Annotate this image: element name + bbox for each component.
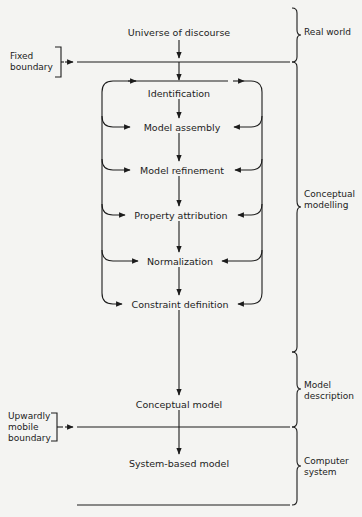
node-model-refinement: Model refinement <box>138 165 226 176</box>
node-property-attribution: Property attribution <box>132 210 229 221</box>
node-model-assembly: Model assembly <box>142 122 223 133</box>
node-normalization: Normalization <box>145 256 215 267</box>
region-model-description-line1: Model <box>304 380 354 391</box>
node-system-based-model: System-based model <box>127 458 231 469</box>
region-conceptual-modelling-line1: Conceptual <box>304 189 355 200</box>
region-computer-system-line2: system <box>304 467 349 478</box>
region-computer-system-line1: Computer <box>304 456 349 467</box>
node-conceptual-model: Conceptual model <box>134 399 224 410</box>
node-universe-of-discourse: Universe of discourse <box>126 27 232 38</box>
fixed-boundary-line1: Fixed <box>10 51 53 62</box>
region-real-world-line1: Real world <box>304 27 351 38</box>
mobile-boundary-line3: boundary <box>8 433 51 444</box>
region-real-world: Real world <box>304 27 351 38</box>
region-conceptual-modelling: Conceptual modelling <box>304 189 355 211</box>
mobile-boundary-line2: mobile <box>8 422 51 433</box>
region-model-description: Model description <box>304 380 354 402</box>
fixed-boundary-label: Fixed boundary <box>10 51 53 73</box>
node-identification: Identification <box>146 88 212 99</box>
node-constraint-definition: Constraint definition <box>130 299 231 310</box>
region-computer-system: Computer system <box>304 456 349 478</box>
mobile-boundary-line1: Upwardly <box>8 411 51 422</box>
region-conceptual-modelling-line2: modelling <box>304 200 355 211</box>
region-model-description-line2: description <box>304 391 354 402</box>
fixed-boundary-line2: boundary <box>10 62 53 73</box>
mobile-boundary-label: Upwardly mobile boundary <box>8 411 51 444</box>
